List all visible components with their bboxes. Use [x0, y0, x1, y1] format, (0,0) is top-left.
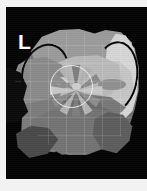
image-canvas: L — [6, 7, 147, 179]
laterality-marker-label: L — [18, 31, 31, 52]
figure-root: L — [0, 0, 147, 191]
